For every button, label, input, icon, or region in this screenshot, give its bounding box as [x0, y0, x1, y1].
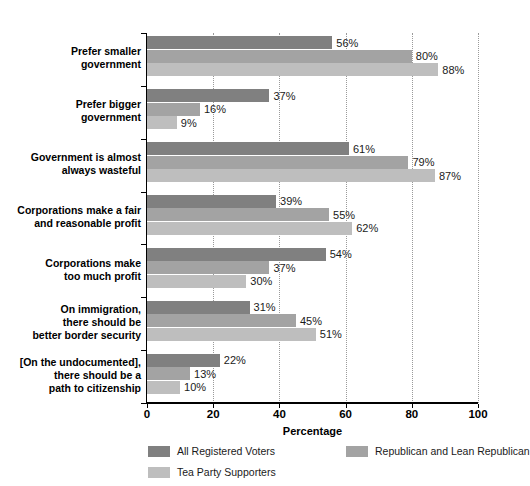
bar-group: 22%13%10% [147, 350, 478, 403]
category-label-line: better border security [1, 329, 141, 342]
bar-row: 56% [147, 36, 478, 49]
category-label-line: there should be [1, 316, 141, 329]
category-label-line: there should be a [1, 369, 141, 382]
bar[interactable] [147, 50, 412, 63]
bar-value-label: 79% [408, 156, 434, 168]
x-axis-tick-label: 0 [127, 408, 167, 420]
bar[interactable] [147, 367, 190, 380]
bar-row: 31% [147, 301, 478, 314]
category-label-line: government [1, 58, 141, 71]
bar[interactable] [147, 275, 246, 288]
category-label-line: Prefer smaller [1, 45, 141, 58]
bar-row: 62% [147, 222, 478, 235]
legend-swatch [346, 446, 368, 457]
bar[interactable] [147, 328, 316, 341]
y-axis-tick [141, 244, 147, 245]
bar[interactable] [147, 116, 177, 129]
bar-row: 88% [147, 63, 478, 76]
bar[interactable] [147, 261, 269, 274]
bar-value-label: 9% [177, 117, 197, 129]
bar-row: 61% [147, 142, 478, 155]
x-axis-title: Percentage [147, 425, 478, 437]
bar[interactable] [147, 248, 326, 261]
bar[interactable] [147, 208, 329, 221]
x-axis-tick-label: 20 [193, 408, 233, 420]
legend-item[interactable]: Republican and Lean Republican [346, 445, 530, 457]
category-label-line: Corporations make a fair [1, 204, 141, 217]
bar-row: 80% [147, 50, 478, 63]
bar[interactable] [147, 354, 220, 367]
bar-row: 51% [147, 328, 478, 341]
bar[interactable] [147, 169, 435, 182]
bar-group: 31%45%51% [147, 297, 478, 350]
category-label: On immigration,there should bebetter bor… [1, 303, 141, 342]
bar-row: 37% [147, 89, 478, 102]
gridline-100 [478, 33, 479, 403]
bar[interactable] [147, 142, 349, 155]
x-axis-tick-label: 80 [392, 408, 432, 420]
legend-item[interactable]: All Registered Voters [148, 445, 275, 457]
bar-row: 22% [147, 354, 478, 367]
category-label-line: On immigration, [1, 303, 141, 316]
category-label-line: and reasonable profit [1, 217, 141, 230]
y-axis-line [146, 33, 147, 403]
bar-value-label: 10% [180, 381, 206, 393]
bar-value-label: 16% [200, 103, 226, 115]
legend-item[interactable]: Tea Party Supporters [148, 466, 276, 478]
category-label-line: Prefer bigger [1, 98, 141, 111]
x-axis-tick-label: 100 [458, 408, 498, 420]
legend-label: All Registered Voters [177, 445, 275, 457]
bar[interactable] [147, 301, 250, 314]
category-label: Corporations make a fairand reasonable p… [1, 204, 141, 230]
category-label-line: Government is almost [1, 151, 141, 164]
bar[interactable] [147, 381, 180, 394]
legend-label: Republican and Lean Republican [375, 445, 530, 457]
y-axis-tick [141, 33, 147, 34]
bar-row: 87% [147, 169, 478, 182]
bar[interactable] [147, 222, 352, 235]
bar[interactable] [147, 63, 438, 76]
bar[interactable] [147, 103, 200, 116]
y-axis-tick [141, 86, 147, 87]
bar-value-label: 39% [276, 195, 302, 207]
bar-row: 10% [147, 381, 478, 394]
bar-value-label: 80% [412, 50, 438, 62]
bar-value-label: 37% [269, 262, 295, 274]
bar[interactable] [147, 314, 296, 327]
bar-value-label: 51% [316, 328, 342, 340]
bar[interactable] [147, 195, 276, 208]
bar[interactable] [147, 89, 269, 102]
category-label-line: Corporations make [1, 257, 141, 270]
category-label-line: path to citizenship [1, 382, 141, 395]
category-label: Prefer smallergovernment [1, 45, 141, 71]
bar[interactable] [147, 36, 332, 49]
legend-label: Tea Party Supporters [177, 466, 276, 478]
bar-row: 30% [147, 275, 478, 288]
bar-value-label: 45% [296, 315, 322, 327]
bar[interactable] [147, 156, 408, 169]
legend-swatch [148, 467, 170, 478]
bar-value-label: 22% [220, 354, 246, 366]
chart-legend: All Registered VotersRepublican and Lean… [148, 445, 508, 485]
bar-value-label: 30% [246, 275, 272, 287]
x-axis-line [147, 402, 478, 404]
bar-row: 45% [147, 314, 478, 327]
bar-group: 39%55%62% [147, 192, 478, 245]
plot-area: 56%80%88%37%16%9%61%79%87%39%55%62%54%37… [147, 33, 478, 403]
y-axis-tick [141, 297, 147, 298]
y-axis-tick [141, 192, 147, 193]
bar-row: 55% [147, 208, 478, 221]
legend-swatch [148, 446, 170, 457]
bar-value-label: 37% [269, 90, 295, 102]
bar-value-label: 55% [329, 209, 355, 221]
y-axis-tick [141, 139, 147, 140]
x-axis-tick-label: 40 [259, 408, 299, 420]
category-label-line: always wasteful [1, 164, 141, 177]
bar-row: 39% [147, 195, 478, 208]
bar-row: 16% [147, 103, 478, 116]
bar-group: 37%16%9% [147, 86, 478, 139]
bar-value-label: 56% [332, 37, 358, 49]
y-axis-tick [141, 350, 147, 351]
bar-row: 54% [147, 248, 478, 261]
